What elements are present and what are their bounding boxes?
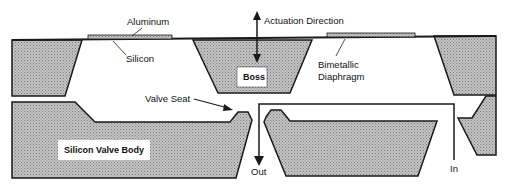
actuation-direction-label: Actuation Direction: [264, 15, 344, 26]
bimetallic-layer: [327, 33, 415, 37]
silicon-label: Silicon: [126, 53, 154, 64]
bimetallic-leader-line: [336, 39, 345, 56]
valve-seat-label: Valve Seat: [145, 93, 191, 104]
lower-middle-silicon-block: [264, 110, 437, 176]
valve-cross-section-diagram: Boss Silicon Valve Body Aluminum Silicon…: [0, 0, 509, 190]
upper-right-silicon-block: [434, 36, 496, 95]
actuation-arrow-up-head: [253, 11, 261, 20]
boss-label: Boss: [243, 72, 265, 82]
upper-left-silicon-block: [12, 40, 82, 96]
valve-seat-leader-line: [194, 99, 228, 108]
in-label: In: [450, 163, 458, 174]
lower-right-silicon-block: [458, 96, 496, 155]
out-arrow-head: [254, 156, 264, 166]
bimetallic-label-line2: Diaphragm: [318, 71, 365, 82]
valve-body-label: Silicon Valve Body: [64, 145, 144, 155]
valve-seat-arrow-head: [223, 104, 233, 111]
aluminum-label: Aluminum: [127, 16, 169, 27]
aluminum-layer: [88, 35, 172, 39]
out-label: Out: [251, 166, 267, 177]
silicon-leader-line: [113, 41, 126, 55]
bimetallic-label-line1: Bimetallic: [318, 59, 359, 70]
